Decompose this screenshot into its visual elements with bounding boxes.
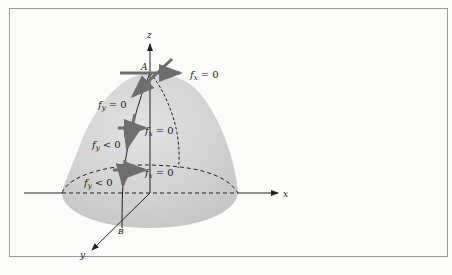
y-axis-label: y [79,250,86,260]
svg-text:fx= 0: fx= 0 [189,69,219,82]
tangent-y-arrow-low [123,160,125,185]
x-axis-label: x [283,189,288,199]
point-a-label: A [140,62,148,72]
point-b-label: B [117,227,124,236]
paraboloid-diagram: x z y A B fx= 0 fy= 0 fx= 0 fy< 0 fx= 0 … [0,0,452,275]
label-fx-top: fx= 0 [189,69,219,82]
z-axis-label: z [146,30,152,40]
